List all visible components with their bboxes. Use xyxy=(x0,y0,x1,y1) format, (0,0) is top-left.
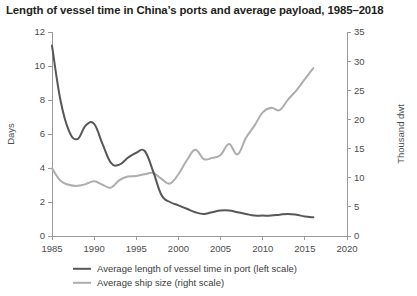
legend-label: Average ship size (right scale) xyxy=(97,277,224,288)
y-axis-left-tick-label: 2 xyxy=(40,196,45,207)
x-axis-tick-label: 2010 xyxy=(252,243,273,254)
y-axis-right-ticks xyxy=(347,32,351,236)
x-axis-tick-label: 2015 xyxy=(294,243,315,254)
x-axis-tick-label: 2005 xyxy=(210,243,231,254)
y-axis-right-title: Thousand dwt xyxy=(395,104,406,164)
series-line-ship-size xyxy=(52,68,313,188)
chart-plot-area: 024681012 05101520253035 198519901995200… xyxy=(0,0,417,296)
chart-legend: Average length of vessel time in port (l… xyxy=(73,263,297,288)
y-axis-left-tick-label: 12 xyxy=(34,26,45,37)
x-axis-tick-label: 2000 xyxy=(168,243,189,254)
axis-lines xyxy=(52,32,347,236)
y-axis-right-tick-label: 25 xyxy=(354,85,365,96)
data-series-group xyxy=(52,46,313,218)
y-axis-right-tick-label: 5 xyxy=(354,201,359,212)
y-axis-right-tick-labels: 05101520253035 xyxy=(354,26,365,241)
y-axis-left-title: Days xyxy=(5,123,16,145)
y-axis-left-tick-label: 4 xyxy=(40,162,45,173)
y-axis-right-tick-label: 10 xyxy=(354,172,365,183)
y-axis-left-tick-label: 6 xyxy=(40,128,45,139)
y-axis-right-tick-label: 35 xyxy=(354,26,365,37)
y-axis-left-tick-label: 0 xyxy=(40,230,45,241)
series-line-vessel-time xyxy=(52,46,313,218)
x-axis-tick-labels: 19851990199520002005201020152020 xyxy=(41,243,357,254)
y-axis-right-tick-label: 0 xyxy=(354,230,359,241)
x-axis-tick-label: 1995 xyxy=(126,243,147,254)
x-axis-tick-label: 1985 xyxy=(41,243,62,254)
x-axis-tick-label: 2020 xyxy=(336,243,357,254)
y-axis-left-tick-label: 10 xyxy=(34,60,45,71)
y-axis-right-tick-label: 15 xyxy=(354,143,365,154)
legend-label: Average length of vessel time in port (l… xyxy=(97,263,297,274)
y-axis-left-tick-label: 8 xyxy=(40,94,45,105)
y-axis-left-ticks xyxy=(48,32,52,236)
y-axis-right-tick-label: 20 xyxy=(354,114,365,125)
chart-figure: Length of vessel time in China’s ports a… xyxy=(0,0,417,296)
x-axis-tick-label: 1990 xyxy=(84,243,105,254)
y-axis-right-tick-label: 30 xyxy=(354,56,365,67)
y-axis-left-tick-labels: 024681012 xyxy=(34,26,45,241)
x-axis-ticks xyxy=(52,236,347,240)
